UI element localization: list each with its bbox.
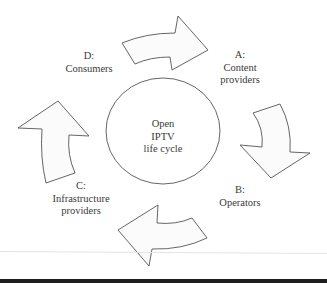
arrow-a-to-b [240, 104, 310, 178]
node-name-d: Consumers [54, 63, 124, 76]
node-name-a-line2: providers [205, 74, 275, 87]
iptv-lifecycle-diagram: D: Consumers A: Content providers Open I… [0, 0, 327, 283]
arrow-c-to-d [18, 101, 89, 183]
node-name-b: Operators [205, 197, 275, 210]
node-label-operators: B: Operators [205, 184, 275, 209]
center-title-line2: IPTV [113, 131, 213, 144]
node-label-consumers: D: Consumers [54, 50, 124, 75]
node-id-a: A: [205, 49, 275, 62]
node-name-c-line1: Infrastructure [36, 193, 126, 206]
center-title-line1: Open [113, 118, 213, 131]
node-id-b: B: [205, 184, 275, 197]
node-id-c: C: [36, 180, 126, 193]
node-label-content-providers: A: Content providers [205, 49, 275, 87]
center-title: Open IPTV life cycle [113, 118, 213, 156]
center-title-line3: life cycle [113, 143, 213, 156]
node-name-a-line1: Content [205, 62, 275, 75]
node-label-infrastructure-providers: C: Infrastructure providers [36, 180, 126, 218]
arrow-b-to-c [118, 205, 207, 266]
bottom-border-bar [0, 279, 327, 283]
node-id-d: D: [54, 50, 124, 63]
arrow-d-to-a [122, 16, 208, 70]
node-name-c-line2: providers [36, 205, 126, 218]
